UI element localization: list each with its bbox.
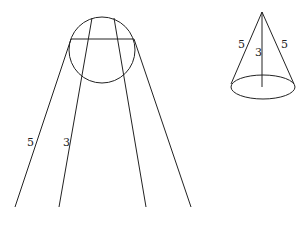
cone-figure: 5 3 5 (231, 12, 295, 99)
unfolded-cone-figure: 5 3 (15, 17, 191, 207)
cone-base-ellipse (231, 75, 295, 99)
diagram-canvas: 5 3 5 3 5 (0, 0, 300, 225)
outer-left-line (15, 39, 71, 207)
inner-left-line (59, 18, 92, 207)
cone-left-slant-label: 5 (238, 38, 245, 51)
cone-right-slant-label: 5 (281, 38, 288, 51)
cone-right-slant (262, 12, 294, 84)
outer-right-line (134, 39, 191, 207)
cone-height-label: 3 (255, 46, 262, 59)
slant-label: 5 (27, 136, 34, 149)
top-circle (69, 17, 135, 83)
height-label: 3 (63, 136, 70, 149)
inner-right-line (114, 18, 146, 207)
